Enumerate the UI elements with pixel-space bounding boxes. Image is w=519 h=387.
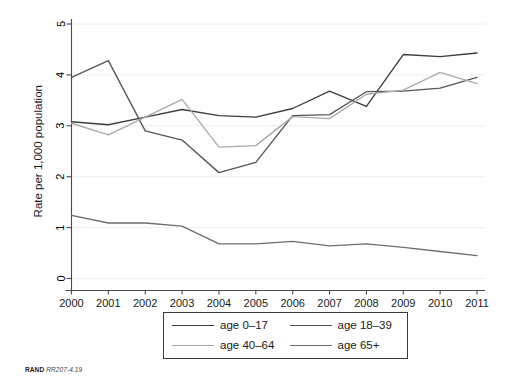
- legend-swatch-age-40-64: [172, 345, 214, 346]
- legend-label-age-18-39: age 18–39: [338, 320, 392, 332]
- svg-text:3: 3: [55, 123, 67, 129]
- svg-text:2000: 2000: [59, 297, 83, 309]
- series-lines: [72, 53, 478, 256]
- legend-label-age-65-plus: age 65+: [338, 340, 380, 352]
- svg-text:Rate per 1,000 population: Rate per 1,000 population: [32, 85, 44, 217]
- legend-item-age-18-39[interactable]: age 18–39: [286, 320, 404, 332]
- y-axis-title: Rate per 1,000 population: [32, 85, 44, 217]
- svg-text:4: 4: [55, 72, 67, 78]
- legend-label-age-40-64: age 40–64: [220, 340, 274, 352]
- legend-item-age-0-17[interactable]: age 0–17: [168, 320, 286, 332]
- svg-text:2003: 2003: [170, 297, 194, 309]
- svg-text:2: 2: [55, 174, 67, 180]
- figure-footer: RANDRR207-4.19: [25, 366, 82, 373]
- svg-text:2007: 2007: [317, 297, 341, 309]
- svg-text:1: 1: [55, 225, 67, 231]
- y-axis-ticks: [67, 24, 72, 279]
- chart-figure: 012345 200020012002200320042005200620072…: [0, 0, 519, 387]
- legend-swatch-age-0-17: [172, 325, 214, 326]
- svg-text:2004: 2004: [207, 297, 231, 309]
- svg-text:2008: 2008: [354, 297, 378, 309]
- svg-text:2010: 2010: [428, 297, 452, 309]
- gridlines: [72, 24, 486, 279]
- svg-text:2005: 2005: [244, 297, 268, 309]
- svg-text:2006: 2006: [280, 297, 304, 309]
- legend-swatch-age-65-plus: [290, 345, 332, 346]
- legend-item-age-65-plus[interactable]: age 65+: [286, 340, 404, 352]
- svg-text:0: 0: [55, 275, 67, 281]
- svg-text:2002: 2002: [133, 297, 157, 309]
- x-axis-ticks: [72, 291, 478, 295]
- line-chart-plot: 012345 200020012002200320042005200620072…: [0, 0, 519, 310]
- legend-swatch-age-18-39: [290, 325, 332, 326]
- svg-text:5: 5: [55, 21, 67, 27]
- svg-text:2001: 2001: [96, 297, 120, 309]
- rand-logo-text: RAND: [25, 366, 44, 373]
- svg-text:2009: 2009: [391, 297, 415, 309]
- figure-report-id: RR207-4.19: [46, 366, 82, 373]
- chart-legend: age 0–17 age 18–39 age 40–64 age 65+: [163, 312, 408, 359]
- svg-text:2011: 2011: [465, 297, 489, 309]
- x-axis-tick-labels: 2000200120022003200420052006200720082009…: [59, 297, 489, 309]
- legend-item-age-40-64[interactable]: age 40–64: [168, 340, 286, 352]
- y-axis-tick-labels: 012345: [55, 21, 67, 282]
- legend-label-age-0-17: age 0–17: [220, 320, 268, 332]
